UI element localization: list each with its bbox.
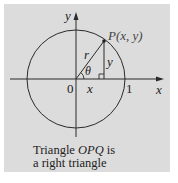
- triangle-name: OPQ: [78, 143, 104, 157]
- point-p-dot: [102, 39, 106, 43]
- x-axis-arrow-icon: [156, 77, 164, 82]
- unit-tick-label: 1: [126, 82, 133, 95]
- y-axis-arrow-icon: [74, 12, 79, 20]
- x-axis-label: x: [156, 83, 162, 96]
- hypotenuse-label: r: [84, 48, 89, 61]
- caption: Triangle OPQ is a right triangle: [33, 144, 115, 170]
- y-axis-label: y: [65, 9, 71, 22]
- horizontal-leg-label: x: [87, 82, 93, 95]
- origin-label: 0: [67, 82, 74, 95]
- angle-arc-icon: [81, 73, 84, 79]
- caption-line-2: a right triangle: [33, 157, 115, 170]
- angle-theta-label: θ: [85, 65, 91, 77]
- vertical-leg-label: y: [107, 55, 113, 68]
- point-p-label: P(x, y): [108, 29, 143, 42]
- right-angle-marker-icon: [99, 74, 104, 79]
